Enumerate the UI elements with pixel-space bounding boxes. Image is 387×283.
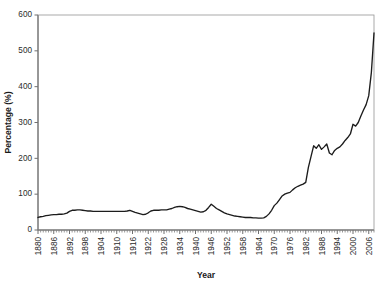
axis-ticks-group (35, 15, 375, 234)
x-tick-label: 1916 (129, 237, 138, 256)
x-tick-label: 2006 (365, 237, 374, 256)
x-tick-label: 1940 (192, 237, 201, 256)
x-tick-label: 1898 (81, 237, 90, 256)
x-tick-label: 1910 (113, 237, 122, 256)
line-chart: 0100200300400500600 18801886189218981904… (0, 0, 387, 283)
x-tick-label: 1892 (66, 237, 75, 256)
x-tick-label: 1880 (34, 237, 43, 256)
x-axis-title: Year (197, 270, 216, 280)
x-tick-label: 1994 (333, 237, 342, 256)
y-tick-label: 300 (18, 118, 32, 127)
y-tick-label: 600 (18, 10, 32, 19)
x-tick-label: 1904 (97, 237, 106, 256)
y-axis-title: Percentage (%) (3, 91, 13, 153)
x-tick-label: 2000 (349, 237, 358, 256)
x-tick-label: 1988 (318, 237, 327, 256)
x-tick-label: 1922 (144, 237, 153, 256)
plot-area-border (38, 15, 374, 230)
x-tick-label: 1970 (270, 237, 279, 256)
x-axis-tick-labels: 1880188618921898190419101916192219281934… (34, 237, 374, 256)
data-series-line (38, 33, 374, 218)
y-tick-label: 500 (18, 46, 32, 55)
y-tick-label: 100 (18, 189, 32, 198)
y-tick-label: 0 (27, 225, 32, 234)
y-tick-label: 400 (18, 82, 32, 91)
x-tick-label: 1982 (302, 237, 311, 256)
x-tick-label: 1952 (223, 237, 232, 256)
x-tick-label: 1976 (286, 237, 295, 256)
x-tick-label: 1928 (160, 237, 169, 256)
x-tick-label: 1886 (50, 237, 59, 256)
x-tick-label: 1958 (239, 237, 248, 256)
y-tick-label: 200 (18, 154, 32, 163)
x-tick-label: 1934 (176, 237, 185, 256)
x-tick-label: 1946 (207, 237, 216, 256)
x-tick-label: 1964 (255, 237, 264, 256)
chart-canvas: 0100200300400500600 18801886189218981904… (0, 0, 387, 283)
y-axis-tick-labels: 0100200300400500600 (18, 10, 32, 234)
